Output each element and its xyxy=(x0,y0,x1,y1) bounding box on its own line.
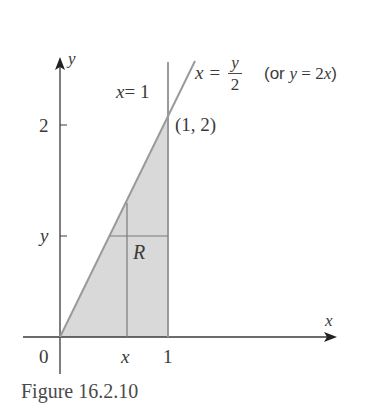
y-tick-label-y: y xyxy=(40,226,48,245)
diagonal-line-alt-label: (or y = 2x) xyxy=(264,65,337,82)
fraction-bar xyxy=(228,73,242,74)
x-axis-label: x xyxy=(325,312,333,329)
point-label: (1, 2) xyxy=(175,115,216,134)
figure-caption: Figure 16.2.10 xyxy=(21,381,138,401)
fraction-denominator: 2 xyxy=(231,76,240,93)
origin-label: 0 xyxy=(39,347,49,366)
x-tick-label-1: 1 xyxy=(163,347,173,366)
diagonal-line-label-lhs: x = xyxy=(195,63,221,82)
fraction-numerator: y xyxy=(231,54,239,71)
y-axis-label: y xyxy=(68,50,76,67)
vertical-line-label: x= 1 xyxy=(116,82,149,101)
y-tick-label-2: 2 xyxy=(39,116,49,135)
x-tick-label-x: x xyxy=(121,347,129,366)
diagonal-line-fraction: y 2 xyxy=(228,54,242,93)
region-label: R xyxy=(133,242,145,262)
diagram-canvas xyxy=(0,0,377,408)
